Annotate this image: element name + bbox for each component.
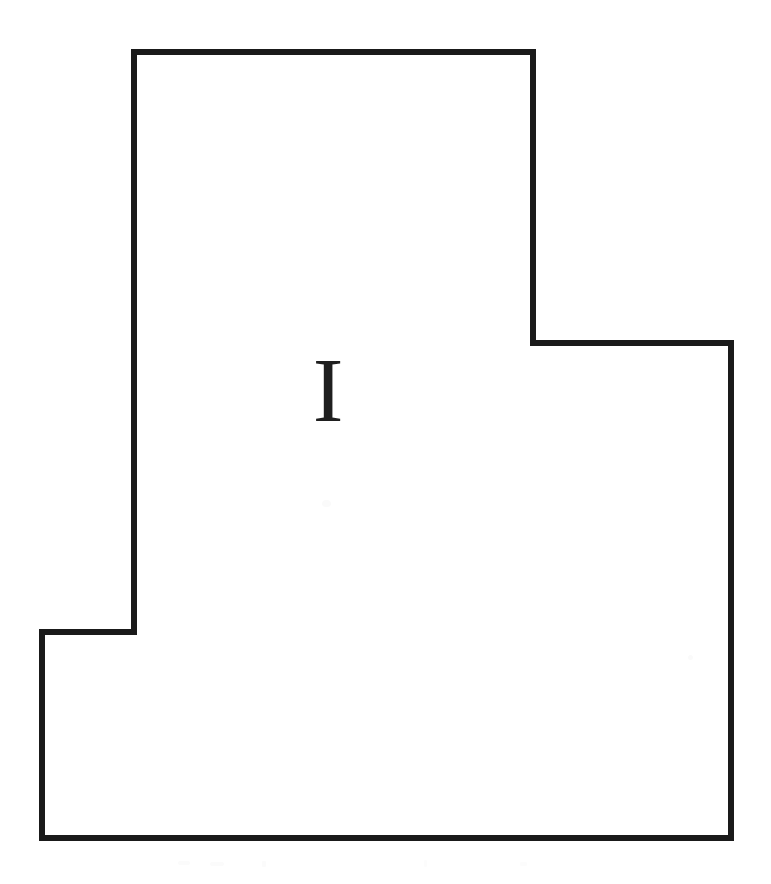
outline-figure (0, 0, 771, 884)
drawing-page: I (0, 0, 771, 884)
page-background (0, 0, 771, 884)
interior-letter-label: I (296, 340, 360, 440)
